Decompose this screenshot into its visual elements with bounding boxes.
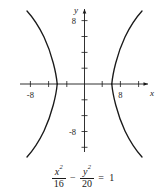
x-axis-label: x [149, 88, 154, 98]
hyperbola-figure: -8 8 8 -8 y x x2 16 − y2 20 = 1 [0, 0, 167, 195]
hyperbola-right-lower [112, 84, 142, 157]
variable-y: y [83, 166, 88, 177]
x-axis-arrow-icon [144, 82, 149, 86]
x-tick-label-neg8: -8 [27, 90, 34, 100]
hyperbola-plot: -8 8 8 -8 y x [0, 0, 167, 160]
exponent-2: 2 [88, 163, 91, 170]
fraction-denominator: 16 [52, 178, 66, 189]
equation-caption: x2 16 − y2 20 = 1 [0, 160, 167, 195]
equals-sign: = [97, 172, 105, 183]
hyperbola-right-upper [112, 11, 142, 84]
fraction-x-squared-over-16: x2 16 [52, 166, 66, 189]
hyperbola-left-upper [27, 11, 57, 84]
fraction-numerator: y2 [81, 166, 93, 178]
x-tick-label-8: 8 [118, 90, 122, 100]
fraction-numerator: x2 [53, 166, 65, 178]
y-tick-label-neg8: -8 [69, 127, 76, 137]
right-hand-side: 1 [108, 172, 115, 183]
minus-operator: − [69, 172, 77, 183]
equation-row: x2 16 − y2 20 = 1 [52, 166, 116, 189]
exponent-2: 2 [59, 163, 62, 170]
y-axis-arrow-icon [83, 9, 87, 14]
fraction-denominator: 20 [80, 178, 94, 189]
fraction-y-squared-over-20: y2 20 [80, 166, 94, 189]
y-tick-label-8: 8 [72, 16, 76, 26]
y-axis-label: y [73, 5, 78, 15]
